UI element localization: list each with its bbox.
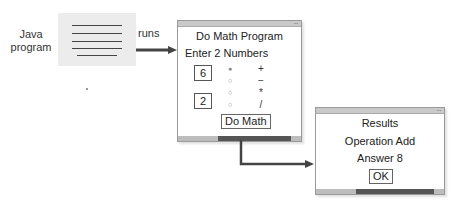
- label-line-1: Java: [8, 28, 54, 41]
- do-math-button[interactable]: Do Math: [221, 114, 271, 129]
- window-controls-icon[interactable]: ▪▪: [437, 109, 442, 113]
- answer-text: Answer 8: [316, 152, 444, 165]
- results-title: Results: [316, 117, 444, 130]
- results-window-titlebar[interactable]: ▪▪: [316, 108, 444, 114]
- results-window: ▪▪ Results Operation Add Answer 8 OK: [315, 107, 445, 195]
- op-add-label: +: [256, 63, 266, 74]
- radio-divide[interactable]: ○: [226, 100, 234, 109]
- results-window-statusbar: [316, 189, 444, 194]
- prompt-text: Enter 2 Numbers: [185, 47, 268, 60]
- ok-button[interactable]: OK: [369, 169, 393, 184]
- op-subtract-label: −: [256, 75, 266, 86]
- operation-text: Operation Add: [316, 135, 444, 148]
- label-line-2: program: [8, 41, 54, 54]
- radio-subtract[interactable]: ○: [226, 76, 234, 85]
- java-program-label: Java program: [8, 28, 54, 54]
- math-window-titlebar[interactable]: ▪▪: [178, 21, 301, 27]
- math-window-title: Do Math Program: [178, 30, 301, 43]
- number1-input[interactable]: 6: [194, 65, 212, 81]
- do-math-window: ▪▪ Do Math Program Enter 2 Numbers 6 2 ●…: [177, 20, 302, 142]
- radio-multiply[interactable]: ○: [226, 88, 234, 97]
- stray-dot: [86, 88, 88, 90]
- runs-label: runs: [138, 27, 168, 40]
- radio-add[interactable]: ●: [226, 64, 234, 73]
- op-multiply-label: *: [256, 87, 266, 98]
- output-arrow-icon: [236, 140, 316, 174]
- number2-input[interactable]: 2: [194, 93, 212, 109]
- op-divide-label: /: [256, 99, 266, 110]
- code-document-icon: [58, 13, 136, 66]
- runs-arrow-icon: [136, 40, 178, 58]
- window-controls-icon[interactable]: ▪▪: [294, 22, 299, 26]
